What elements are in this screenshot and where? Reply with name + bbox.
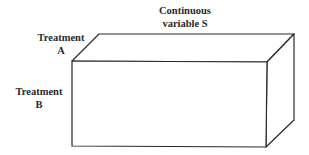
continuous-variable-label-line2: variable S <box>148 17 222 30</box>
box-front-face <box>72 61 267 147</box>
treatment-b-label-line1: Treatment <box>8 85 70 98</box>
treatment-a-label: Treatment A <box>30 31 92 57</box>
treatment-b-label: Treatment B <box>8 85 70 111</box>
treatment-b-label-line2: B <box>8 98 70 111</box>
continuous-variable-s-label: Continuous variable S <box>148 4 222 30</box>
treatment-a-label-line1: Treatment <box>30 31 92 44</box>
diagram-canvas: Continuous variable S Treatment A Treatm… <box>0 0 309 155</box>
box-top-face <box>72 34 294 62</box>
continuous-variable-label-line1: Continuous <box>148 4 222 17</box>
treatment-a-label-line2: A <box>30 44 92 57</box>
